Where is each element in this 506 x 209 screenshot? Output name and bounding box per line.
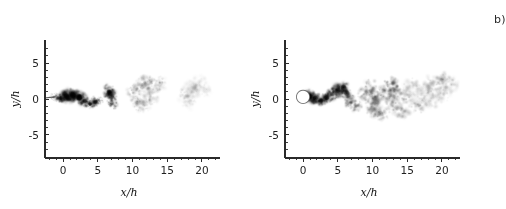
panel-b-y-tick-label: 5 <box>272 57 279 69</box>
panel-a-plot-area: 0510152050-5x/hy/h <box>0 0 239 209</box>
panel-b-axes: 0510152050-5x/hy/h <box>240 35 479 209</box>
panel-b: b) 0510152050-5x/hy/h <box>240 0 479 209</box>
panel-b-x-tick-label: 15 <box>401 164 414 176</box>
panel-a-axes: 0510152050-5x/hy/h <box>0 35 239 209</box>
panel-b-x-tick-label: 20 <box>435 164 448 176</box>
panel-a-x-tick-label: 0 <box>60 164 67 176</box>
panel-b-x-tick-label: 0 <box>300 164 307 176</box>
panel-b-x-axis-title: x/h <box>361 186 378 199</box>
panel-a-x-axis-title: x/h <box>121 186 138 199</box>
panel-a-y-tick-label: 0 <box>32 93 39 105</box>
panel-b-x-tick-label: 10 <box>366 164 379 176</box>
panel-b-plot-area: 0510152050-5x/hy/h <box>240 0 479 209</box>
panel-a: a) 0510152050-5x/hy/h <box>0 0 239 209</box>
panel-a-x-tick-label: 20 <box>195 164 208 176</box>
panel-b-y-axis-title: y/h <box>249 90 262 108</box>
panel-b-y-tick-label: 0 <box>272 93 279 105</box>
panel-b-label: b) <box>494 13 506 26</box>
panel-a-x-tick-label: 10 <box>126 164 139 176</box>
panel-b-y-tick-label: -5 <box>269 129 279 141</box>
panel-a-y-axis-title: y/h <box>9 90 22 108</box>
panel-a-x-tick-label: 5 <box>94 164 101 176</box>
panel-a-x-tick-label: 15 <box>161 164 174 176</box>
panel-b-x-tick-label: 5 <box>334 164 341 176</box>
panel-a-y-tick-label: 5 <box>32 57 39 69</box>
panel-a-y-tick-label: -5 <box>29 129 39 141</box>
